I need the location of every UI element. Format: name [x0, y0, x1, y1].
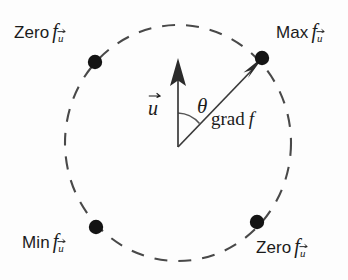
subscript-u-vector: u: [317, 33, 323, 44]
point-dot-min: [89, 220, 103, 234]
label-theta: θ: [197, 96, 207, 117]
vector-arrow-icon: [148, 91, 161, 98]
label-zero-bottom-right: Zerofu: [256, 236, 305, 259]
subscript-u-vector: u: [58, 33, 64, 44]
point-dot-zero-top-left: [88, 55, 102, 69]
vector-arrow-icon: [316, 28, 325, 33]
label-min-function: fu: [53, 231, 64, 254]
label-min-word: Min: [22, 233, 50, 252]
label-zero-top-left-word: Zero: [14, 23, 49, 42]
label-u-vector: u: [148, 98, 158, 118]
point-dot-zero-bottom-right: [250, 215, 264, 229]
label-zero-bottom-right-word: Zero: [256, 238, 291, 257]
label-zero-bottom-right-function: fu: [294, 236, 305, 259]
subscript-u-vector: u: [58, 243, 64, 254]
vector-arrow-icon: [299, 243, 308, 248]
label-zero-top-left: Zerofu: [14, 21, 63, 44]
vector-arrow-icon: [57, 238, 66, 243]
label-max-word: Max: [276, 23, 308, 42]
u-vector-glyph: u: [148, 98, 158, 118]
label-max: Maxfu: [276, 21, 322, 44]
point-dot-max: [255, 51, 269, 65]
gradient-direction-diagram: Zerofu Maxfu Minfu Zerofu u θ gradf: [0, 0, 348, 280]
subscript-u-vector: u: [300, 248, 306, 259]
label-zero-top-left-function: fu: [52, 21, 63, 44]
label-max-function: fu: [311, 21, 322, 44]
label-grad-word: grad: [211, 108, 245, 129]
vector-arrow-icon: [57, 28, 66, 33]
label-grad-function: f: [249, 108, 254, 129]
label-min: Minfu: [22, 231, 64, 254]
label-grad-f: gradf: [211, 109, 254, 128]
